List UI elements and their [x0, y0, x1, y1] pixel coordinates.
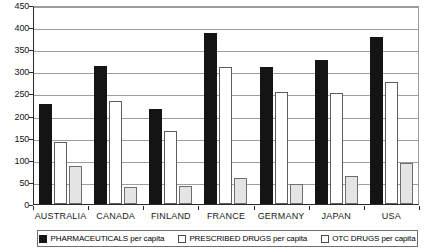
x-axis-tick [419, 206, 420, 210]
bar-group [89, 7, 144, 204]
y-axis-tick [29, 161, 33, 162]
x-axis-tick [33, 206, 34, 210]
bar [400, 163, 413, 204]
white-outlined-swatch [178, 235, 186, 243]
y-axis-tick [29, 72, 33, 73]
bar [54, 142, 67, 204]
x-axis-label-canada: CANADA [88, 211, 143, 221]
y-axis-tick-label: 100 [1, 157, 29, 166]
bar [370, 37, 383, 204]
y-axis-tick [29, 6, 33, 7]
bar [204, 33, 217, 204]
bar-group [255, 7, 310, 204]
x-axis-label-usa: USA [364, 211, 419, 221]
legend-label: PHARMACEUTICALS per capita [50, 234, 164, 243]
y-axis-tick [29, 117, 33, 118]
x-axis-tick [364, 206, 365, 210]
bar [149, 109, 162, 204]
y-axis-tick-label: 50 [1, 179, 29, 188]
x-axis-label-finland: FINLAND [143, 211, 198, 221]
bar [109, 101, 122, 204]
y-axis-tick-label: 150 [1, 135, 29, 144]
y-axis-tick-label: 300 [1, 68, 29, 77]
bar-group [310, 7, 365, 204]
bar [124, 187, 137, 204]
bar [275, 92, 288, 204]
y-axis-tick [29, 50, 33, 51]
legend-label: OTC DRUGS per capita [332, 234, 415, 243]
y-axis-tick [29, 28, 33, 29]
x-axis-label-japan: JAPAN [309, 211, 364, 221]
x-axis-tick [254, 206, 255, 210]
bar [330, 93, 343, 204]
bar [315, 60, 328, 204]
plot-area [33, 6, 419, 205]
bar [345, 176, 358, 204]
bar [94, 66, 107, 204]
bar [164, 131, 177, 204]
bar [39, 104, 52, 204]
bar [385, 82, 398, 204]
y-axis-tick-label: 350 [1, 46, 29, 55]
legend-entry: PRESCRIBED DRUGS per capita [178, 234, 307, 243]
y-axis-tick-label: 200 [1, 113, 29, 122]
bar [179, 186, 192, 204]
x-axis-label-australia: AUSTRALIA [33, 211, 88, 221]
x-axis-tick [309, 206, 310, 210]
y-axis-tick [29, 94, 33, 95]
bar [234, 178, 247, 204]
x-axis-tick [143, 206, 144, 210]
x-axis-tick [198, 206, 199, 210]
legend-entry: OTC DRUGS per capita [321, 234, 415, 243]
bar-group [199, 7, 254, 204]
gray-outlined-swatch [321, 235, 329, 243]
black-filled-swatch [39, 235, 47, 243]
chart-legend: PHARMACEUTICALS per capitaPRESCRIBED DRU… [37, 230, 418, 247]
x-axis-label-germany: GERMANY [254, 211, 309, 221]
bar-group [34, 7, 89, 204]
y-axis-tick-label: 0 [1, 201, 29, 210]
y-axis-tick-label: 250 [1, 90, 29, 99]
y-axis-tick [29, 183, 33, 184]
bar [260, 67, 273, 204]
bar-group [365, 7, 420, 204]
x-axis-label-france: FRANCE [198, 211, 253, 221]
y-axis-tick [29, 139, 33, 140]
bar [219, 67, 232, 204]
bar [69, 166, 82, 204]
legend-label: PRESCRIBED DRUGS per capita [189, 234, 307, 243]
y-axis-tick-label: 450 [1, 2, 29, 11]
legend-entry: PHARMACEUTICALS per capita [39, 234, 164, 243]
bar [290, 184, 303, 204]
x-axis-tick [88, 206, 89, 210]
y-axis-tick-label: 400 [1, 24, 29, 33]
bar-group [144, 7, 199, 204]
bar-chart: PHARMACEUTICALS per capitaPRESCRIBED DRU… [0, 0, 424, 252]
